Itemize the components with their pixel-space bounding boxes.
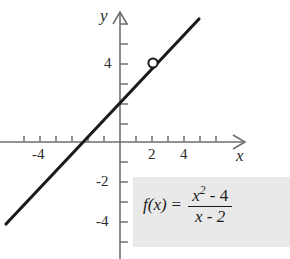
x-axis-label: x <box>236 146 244 166</box>
y-axis-label: y <box>100 6 108 26</box>
x-tick-label-2: 2 <box>148 146 156 163</box>
x-tick-label-minus4: -4 <box>32 146 45 163</box>
y-tick-label-minus2: -2 <box>96 173 109 190</box>
numerator-variable: x <box>192 186 200 205</box>
formula-callout: f(x) = x2 - 4 x - 2 <box>143 184 232 226</box>
y-axis-ticks <box>120 24 128 242</box>
formula-function-name: f(x) <box>143 195 167 215</box>
formula-numerator: x2 - 4 <box>188 184 232 207</box>
formula-denominator: x - 2 <box>191 207 229 227</box>
formula-fraction: x2 - 4 x - 2 <box>188 184 232 226</box>
y-tick-label-4: 4 <box>104 55 112 72</box>
removable-discontinuity-marker <box>148 58 157 67</box>
formula-equals-sign: = <box>172 195 182 215</box>
numerator-exponent: 2 <box>200 184 206 197</box>
numerator-remainder: - 4 <box>210 186 228 205</box>
function-graph-figure: y x -4 2 4 4 -2 -4 f(x) = x2 - 4 x - 2 <box>0 0 290 259</box>
x-tick-label-4: 4 <box>180 146 188 163</box>
y-tick-label-minus4: -4 <box>96 213 109 230</box>
